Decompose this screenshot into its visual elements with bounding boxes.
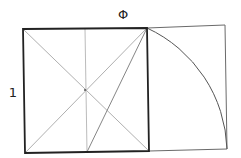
center-point	[84, 89, 86, 91]
golden-arc	[147, 28, 227, 149]
golden-rectangle-diagram: Φ 1	[0, 0, 241, 158]
phi-label: Φ	[118, 7, 128, 22]
midpoint-to-corner-line	[87, 28, 147, 152]
unit-label: 1	[9, 85, 17, 100]
extension-rectangle	[147, 25, 227, 151]
